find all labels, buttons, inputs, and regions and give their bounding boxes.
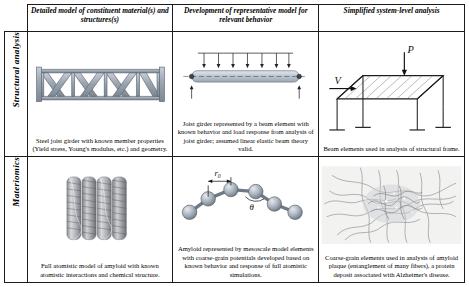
annotation-P: P [407, 44, 415, 55]
graphic-amyloid-fibril-atomistic [28, 157, 173, 262]
annotation-V: V [335, 75, 343, 86]
structural-frame-svg: P V [319, 32, 464, 145]
annotation-theta: θ [250, 203, 255, 213]
graphic-amyloid-plaque-network [319, 157, 464, 253]
cell-materiomics-system: Coarse-grain elements used in analysis o… [319, 157, 465, 283]
annotation-r0: r0 [215, 169, 221, 180]
row-header-materiomics: Materiomics [5, 157, 28, 283]
beam-element-svg [173, 32, 318, 120]
column-header-system-level: Simplified system-level analysis [319, 5, 465, 32]
figure-root: Detailed model of constituent material(s… [0, 0, 469, 287]
bead-spring-svg: r0 θ [173, 157, 318, 245]
row-header-materiomics-label: Materiomics [11, 157, 21, 207]
matrix-row-structural-analysis: Structural analysis [5, 31, 465, 157]
cell-materiomics-representative: r0 θ Amyloid represented by mesoscale mo… [173, 157, 319, 283]
graphic-beam-element-with-loads [173, 32, 318, 120]
cell-structural-representative: Joist girder represented by a beam eleme… [173, 31, 319, 157]
matrix-header-row: Detailed model of constituent material(s… [5, 5, 465, 32]
matrix-corner [5, 5, 28, 32]
multiscale-modeling-matrix: Detailed model of constituent material(s… [4, 4, 465, 283]
amyloid-plaque-svg [319, 157, 464, 253]
cell-structural-system: P V Beam elements used in analysis of st… [319, 31, 465, 157]
cell-materiomics-detailed: Full atomistic model of amyloid with kno… [27, 157, 173, 283]
graphic-steel-truss-girder [28, 32, 173, 137]
graphic-coarse-grain-bead-spring: r0 θ [173, 157, 318, 245]
caption-materiomics-detailed: Full atomistic model of amyloid with kno… [28, 262, 173, 282]
amyloid-fibril-svg [28, 157, 173, 262]
steel-truss-girder-svg [28, 32, 173, 137]
row-header-structural-analysis-label: Structural analysis [11, 32, 21, 108]
column-header-representative-model: Development of representative model for … [173, 5, 319, 32]
graphic-structural-frame: P V [319, 32, 464, 145]
caption-materiomics-representative: Amyloid represented by mesoscale model e… [173, 245, 318, 282]
column-header-detailed-model: Detailed model of constituent material(s… [27, 5, 173, 32]
cell-structural-detailed: Steel joist girder with known member pro… [27, 31, 173, 157]
matrix-row-materiomics: Materiomics [5, 157, 465, 283]
row-header-structural-analysis: Structural analysis [5, 31, 28, 157]
caption-materiomics-system: Coarse-grain elements used in analysis o… [319, 254, 464, 282]
caption-structural-detailed: Steel joist girder with known member pro… [28, 137, 173, 157]
caption-structural-representative: Joist girder represented by a beam eleme… [173, 120, 318, 157]
caption-structural-system: Beam elements used in analysis of struct… [319, 145, 464, 156]
